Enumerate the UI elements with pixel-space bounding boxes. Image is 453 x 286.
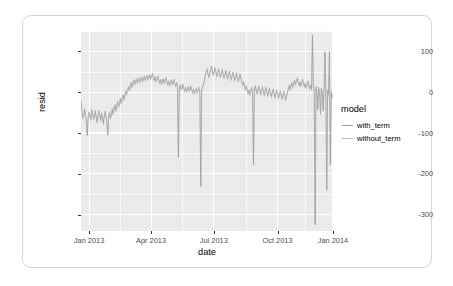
legend-items: with_termwithout_term — [341, 119, 427, 145]
y-tick-mark — [78, 51, 81, 52]
plot-panel — [81, 31, 333, 231]
series-lines — [81, 31, 333, 231]
y-tick-mark — [78, 92, 81, 93]
legend-label: with_term — [357, 121, 390, 130]
x-axis-title: date — [81, 247, 333, 257]
y-axis-title: resid — [37, 92, 47, 112]
series-line — [81, 35, 333, 225]
x-tick-mark — [278, 231, 279, 234]
y-tick-mark — [78, 174, 81, 175]
legend-item: without_term — [341, 132, 427, 145]
y-tick-mark — [78, 133, 81, 134]
x-tick-mark — [333, 231, 334, 234]
y-tick-label: -200 — [383, 169, 433, 178]
x-tick-label: Jan 2013 — [59, 236, 119, 245]
x-tick-label: Jan 2014 — [303, 236, 363, 245]
legend-label: without_term — [357, 134, 400, 143]
y-tick-label: -300 — [383, 210, 433, 219]
x-tick-mark — [89, 231, 90, 234]
plot-area: resid 1000-100-200-300 Jan 2013Apr 2013J… — [23, 16, 433, 269]
x-tick-label: Apr 2013 — [121, 236, 181, 245]
legend-key-swatch — [341, 119, 354, 132]
y-tick-label: 0 — [383, 88, 433, 97]
y-tick-mark — [78, 215, 81, 216]
y-tick-label: 100 — [383, 47, 433, 56]
x-tick-mark — [151, 231, 152, 234]
chart-card: resid 1000-100-200-300 Jan 2013Apr 2013J… — [22, 15, 432, 268]
x-tick-mark — [214, 231, 215, 234]
legend-item: with_term — [341, 119, 427, 132]
x-tick-label: Oct 2013 — [248, 236, 308, 245]
legend: model with_termwithout_term — [341, 104, 427, 145]
legend-key-swatch — [341, 132, 354, 145]
x-tick-label: Jul 2013 — [184, 236, 244, 245]
series-line — [81, 37, 333, 224]
legend-title: model — [341, 104, 427, 114]
